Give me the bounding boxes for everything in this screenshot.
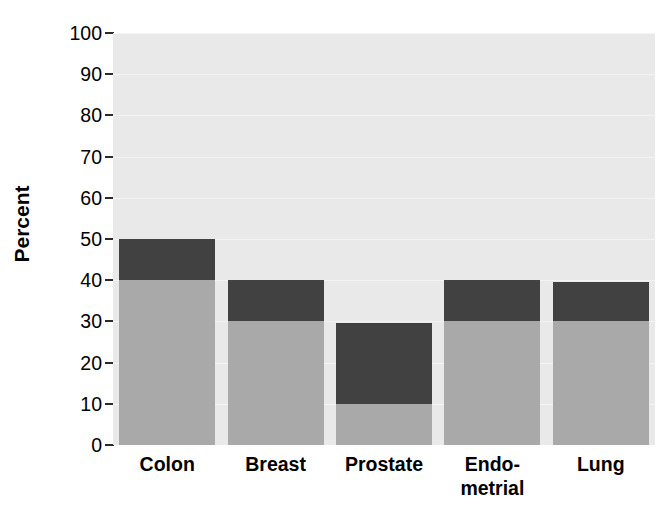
y-axis-tick-label: 70 <box>40 146 102 168</box>
bar-group <box>228 33 324 445</box>
bar-segment-upper-segment <box>553 282 649 321</box>
bar-group <box>119 33 215 445</box>
y-axis-title: Percent <box>10 164 34 284</box>
bar-segment-upper-segment <box>119 239 215 280</box>
x-axis-tick-label-line: Endo- <box>465 453 520 475</box>
x-axis-tick-label-line: metrial <box>438 476 546 500</box>
x-axis-tick-label-line: Lung <box>577 453 625 475</box>
y-axis-tick-label: 0 <box>40 434 102 456</box>
x-axis-tick-label-line: Prostate <box>345 453 423 475</box>
bar-group <box>553 33 649 445</box>
bar-segment-upper-segment <box>228 280 324 321</box>
plot-area <box>113 33 655 445</box>
y-axis-tick-label: 40 <box>40 269 102 291</box>
bar-segment-lower-segment <box>119 280 215 445</box>
bar-segment-upper-segment <box>444 280 540 321</box>
bars-layer <box>113 33 655 445</box>
y-axis-tick-label: 60 <box>40 187 102 209</box>
y-axis-tick-label: 80 <box>40 104 102 126</box>
chart-figure: Percent 1009080706050403020100 ColonBrea… <box>0 0 669 529</box>
bar-segment-lower-segment <box>553 321 649 445</box>
y-axis-tick-label: 20 <box>40 352 102 374</box>
bar-segment-lower-segment <box>336 404 432 445</box>
x-axis-tick-label: Lung <box>547 452 655 476</box>
y-axis-tick-label: 10 <box>40 393 102 415</box>
x-axis-tick-label: Breast <box>221 452 329 476</box>
bar-segment-lower-segment <box>228 321 324 445</box>
bar-group <box>336 33 432 445</box>
bar-segment-upper-segment <box>336 323 432 403</box>
y-axis-tick-label: 30 <box>40 310 102 332</box>
y-axis-tick-label: 50 <box>40 228 102 250</box>
x-axis-tick-label: Prostate <box>330 452 438 476</box>
y-axis-tick-label: 90 <box>40 63 102 85</box>
y-axis-tick-label: 100 <box>40 22 102 44</box>
x-axis-tick-label: Colon <box>113 452 221 476</box>
x-axis-tick-label: Endo-metrial <box>438 452 546 500</box>
bar-group <box>444 33 540 445</box>
bar-segment-lower-segment <box>444 321 540 445</box>
x-axis-tick-label-line: Colon <box>140 453 195 475</box>
x-axis-tick-label-line: Breast <box>245 453 306 475</box>
x-axis-tick-labels: ColonBreastProstateEndo-metrialLung <box>113 452 655 522</box>
y-axis-tick-labels: 1009080706050403020100 <box>40 0 102 529</box>
